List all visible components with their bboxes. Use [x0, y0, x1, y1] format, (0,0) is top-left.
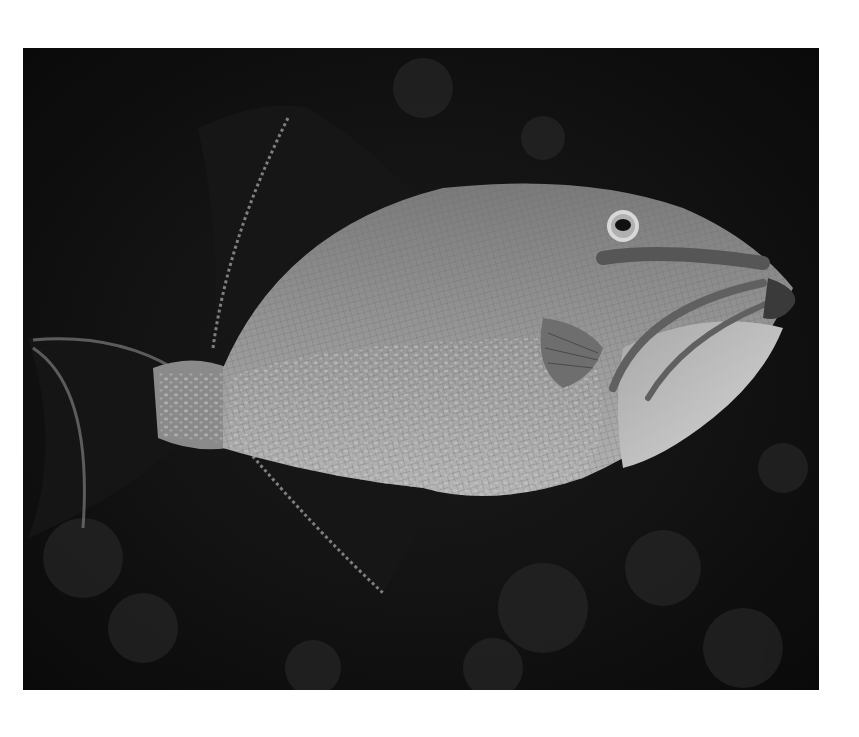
fish-photo: Triggerfish swimming against dark reef b… [23, 48, 819, 690]
triggerfish-illustration [23, 48, 819, 690]
